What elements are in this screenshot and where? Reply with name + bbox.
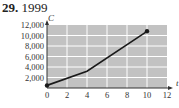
x-axis-label: t bbox=[176, 78, 179, 88]
x-tick-label: 2 bbox=[65, 90, 69, 100]
x-tick-label: 6 bbox=[105, 90, 109, 100]
line-chart: 0246810122,0004,0006,0008,00010,00012,00… bbox=[0, 0, 179, 108]
y-tick-label: 4,000 bbox=[25, 62, 44, 72]
y-tick-label: 10,000 bbox=[21, 31, 44, 41]
plot-area: 0246810122,0004,0006,0008,00010,00012,00… bbox=[21, 13, 179, 100]
data-point-end bbox=[145, 29, 149, 33]
x-tick-label: 12 bbox=[163, 90, 172, 100]
y-tick-label: 2,000 bbox=[25, 73, 44, 83]
y-axis-label: C bbox=[48, 13, 55, 23]
y-tick-label: 12,000 bbox=[21, 20, 44, 30]
x-tick-label: 4 bbox=[85, 90, 90, 100]
data-point-start bbox=[45, 83, 49, 87]
x-tick-label: 8 bbox=[125, 90, 129, 100]
y-tick-label: 6,000 bbox=[25, 52, 44, 62]
y-tick-label: 8,000 bbox=[25, 41, 44, 51]
x-tick-label: 10 bbox=[143, 90, 152, 100]
x-tick-label: 0 bbox=[45, 90, 49, 100]
